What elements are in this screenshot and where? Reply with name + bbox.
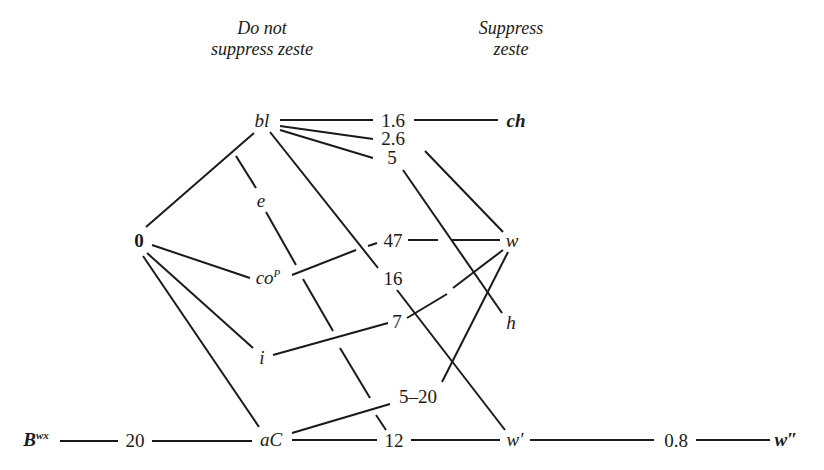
node-0.8: 0.8 [664, 431, 688, 450]
node-h: h [506, 313, 516, 332]
header-suppress: Suppress zeste [479, 18, 543, 60]
edge-bl-0 [146, 133, 254, 227]
edge-e-12d [376, 415, 386, 430]
node-coP: coP [256, 268, 281, 287]
edge-branch-e [236, 156, 256, 188]
edge-e-12b [303, 279, 333, 331]
node-w-double-prime: w″ [774, 430, 797, 449]
node-2.6: 2.6 [381, 129, 405, 148]
node-5: 5 [387, 148, 397, 167]
edge-0-aC [143, 256, 259, 427]
edge-coP-47a [292, 250, 356, 275]
edge-e-12c [340, 348, 370, 398]
edge-7-w-a [407, 294, 447, 318]
edge-aC-5-20 [292, 404, 390, 433]
edge-16-wprime [397, 290, 505, 430]
edge-0-i [147, 253, 253, 348]
node-47: 47 [384, 231, 403, 250]
node-16: 16 [384, 269, 403, 288]
node-w: w [506, 231, 519, 250]
node-ch: ch [507, 111, 526, 130]
node-20: 20 [126, 431, 145, 450]
edge-7-w-b [453, 250, 503, 288]
node-w-prime: w′ [507, 430, 524, 449]
node-Bwx: Bwx [23, 430, 49, 449]
node-aC: aC [260, 430, 282, 449]
node-5-20: 5–20 [399, 387, 437, 406]
edge-e-12a [266, 212, 296, 265]
node-12: 12 [385, 431, 404, 450]
edge-0-coP [152, 245, 250, 278]
node-7: 7 [392, 312, 402, 331]
node-i: i [259, 348, 264, 367]
node-0: 0 [134, 231, 144, 250]
header-do-not-suppress: Do not suppress zeste [211, 18, 313, 60]
edge-coP-47b [368, 243, 377, 246]
node-bl: bl [255, 111, 270, 130]
node-e: e [257, 191, 265, 210]
edge-bl-2.6 [280, 126, 373, 139]
edge-bl-5 [280, 130, 373, 158]
